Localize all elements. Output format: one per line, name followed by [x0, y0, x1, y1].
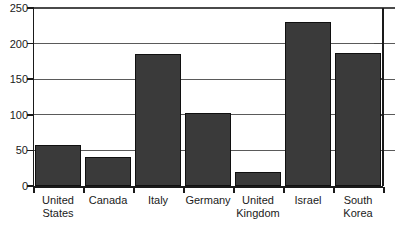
bar — [185, 113, 231, 186]
bar-chart: 050100150200250 United StatesCanadaItaly… — [0, 0, 395, 227]
x-axis-tick-mark — [133, 187, 135, 193]
x-axis-category-label: Canada — [83, 194, 133, 207]
x-axis-tick-mark — [83, 187, 85, 193]
x-axis-tick-mark — [233, 187, 235, 193]
x-axis-tick-mark — [333, 187, 335, 193]
bar — [285, 22, 331, 186]
x-axis-category-label: Germany — [183, 194, 233, 207]
bar — [235, 172, 281, 186]
bar — [85, 157, 131, 186]
x-axis-category-label: Israel — [283, 194, 333, 207]
x-axis-line — [33, 186, 383, 188]
y-axis-tick-label: 250 — [2, 3, 28, 14]
x-axis-tick-mark — [383, 187, 385, 193]
x-axis-tick-mark — [33, 187, 35, 193]
x-axis-category-label: Italy — [133, 194, 183, 207]
x-axis-category-label: United States — [33, 194, 83, 220]
x-axis-tick-mark — [183, 187, 185, 193]
x-axis-tick-mark — [283, 187, 285, 193]
bars-layer — [33, 8, 383, 186]
y-axis-tick-label: 50 — [2, 145, 28, 156]
x-axis-category-label: United Kingdom — [233, 194, 283, 220]
y-axis-tick-label: 200 — [2, 38, 28, 49]
bar — [35, 145, 81, 186]
y-axis-tick-label: 100 — [2, 109, 28, 120]
bar — [335, 53, 381, 186]
y-axis-tick-label: 150 — [2, 74, 28, 85]
x-axis-category-label: South Korea — [333, 194, 383, 220]
y-axis-labels: 050100150200250 — [0, 0, 28, 227]
bar — [135, 54, 181, 186]
y-axis-tick-label: 0 — [2, 181, 28, 192]
